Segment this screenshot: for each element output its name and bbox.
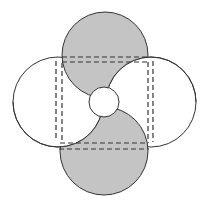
center-circle [89, 87, 119, 117]
top-gray-circle [62, 12, 148, 98]
pinwheel-diagram [0, 0, 206, 206]
bottom-gray-circle [60, 107, 148, 195]
diagram-canvas [0, 0, 206, 206]
